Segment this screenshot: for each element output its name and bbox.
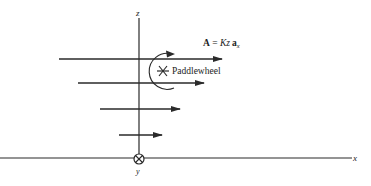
y-axis-into-page-icon [134, 154, 144, 164]
x-axis-label: x [352, 153, 357, 163]
field-equation-label: A = Kzax [203, 38, 240, 49]
paddlewheel-label: Paddlewheel [172, 66, 221, 76]
field-diagram: z x y Paddlewheel A = Kzax [0, 0, 371, 186]
rotation-arrowhead-icon [166, 51, 175, 58]
y-axis-label: y [135, 167, 140, 176]
unit-subscript: x [236, 42, 240, 49]
equals: = [210, 38, 220, 48]
kz-term: Kz [219, 38, 230, 48]
z-axis-label: z [135, 8, 140, 18]
paddlewheel-icon [157, 66, 169, 76]
